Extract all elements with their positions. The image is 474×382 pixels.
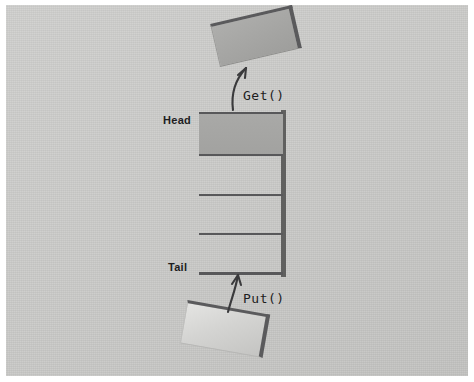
diagram-canvas: Head Tail Get() Put() — [0, 0, 474, 382]
get-operation-label: Get() — [243, 88, 285, 103]
put-operation-label: Put() — [243, 291, 285, 306]
put-arrow — [228, 275, 241, 312]
tail-label: Tail — [168, 261, 187, 273]
arrow-layer — [0, 0, 474, 382]
head-label: Head — [163, 114, 191, 126]
